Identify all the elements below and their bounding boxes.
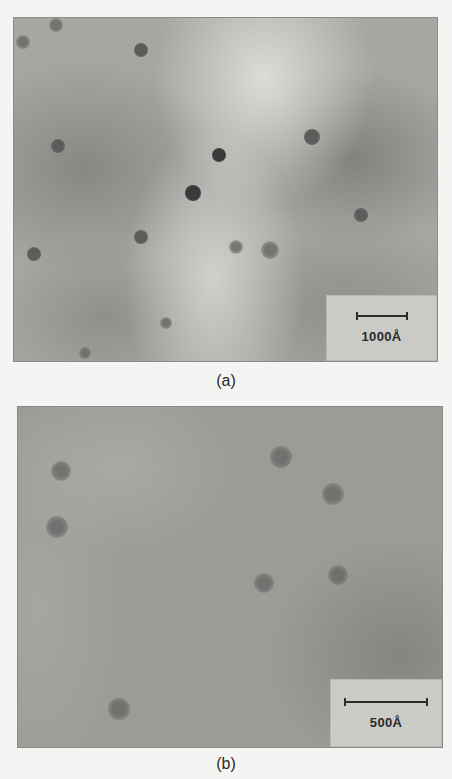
particle bbox=[254, 573, 274, 593]
particle bbox=[79, 347, 91, 359]
particle bbox=[16, 35, 30, 49]
micrograph-panel-b: 500Å bbox=[18, 407, 442, 747]
particle bbox=[27, 247, 41, 261]
scale-bar-box-b: 500Å bbox=[330, 679, 442, 747]
particle bbox=[270, 446, 292, 468]
caption-b: (b) bbox=[0, 755, 452, 773]
particle bbox=[51, 139, 65, 153]
particle bbox=[354, 208, 368, 222]
scale-bar-label-a: 1000Å bbox=[326, 329, 437, 344]
particle bbox=[322, 483, 344, 505]
particle bbox=[304, 129, 320, 145]
particle bbox=[134, 230, 148, 244]
scale-bar-label-b: 500Å bbox=[330, 715, 442, 730]
particle bbox=[229, 240, 243, 254]
particle bbox=[108, 698, 130, 720]
particle bbox=[160, 317, 172, 329]
particle bbox=[46, 516, 68, 538]
scale-bar-b bbox=[344, 701, 428, 703]
scale-bar-box-a: 1000Å bbox=[326, 295, 437, 361]
scale-bar-a bbox=[356, 315, 408, 317]
caption-a: (a) bbox=[0, 372, 452, 390]
particle bbox=[328, 565, 348, 585]
particle bbox=[185, 185, 201, 201]
particle bbox=[261, 241, 279, 259]
particle bbox=[49, 18, 63, 32]
particle bbox=[51, 461, 71, 481]
particle bbox=[134, 43, 148, 57]
micrograph-panel-a: 1000Å bbox=[14, 18, 437, 361]
particle bbox=[212, 148, 226, 162]
